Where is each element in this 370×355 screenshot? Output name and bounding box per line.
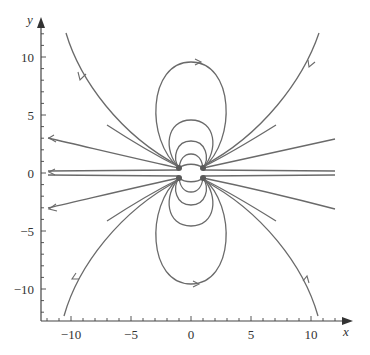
field-line-side-lower-left [48,178,179,208]
y-tick-label: 10 [21,50,34,65]
x-axis-label: x [342,324,349,339]
field-line-plot: x y −10 −5 0 5 10 10 5 0 −5 −10 [0,0,370,355]
field-lines [48,33,335,316]
loop-top-large [156,62,226,168]
direction-arrows [49,59,315,287]
source-point [200,175,206,181]
field-line-axis-right-1 [203,170,335,171]
field-line-side-lower-right [203,178,335,209]
y-tick-labels: 10 5 0 −5 −10 [14,50,34,297]
arrow-icon [72,273,79,279]
source-point [176,165,182,171]
y-tick-label: 0 [28,166,35,181]
field-line-axis-left-2 [48,175,179,176]
loop-bottom-large [156,178,226,284]
x-tick-label: 5 [248,327,255,342]
sources [176,165,206,181]
x-tick-label: −10 [61,327,81,342]
x-tick-label: 0 [188,327,195,342]
x-tick-label: 10 [305,327,318,342]
inner-arc-bottom [179,178,203,182]
source-point [200,165,206,171]
y-axis-label: y [25,12,33,27]
source-point [176,175,182,181]
x-tick-labels: −10 −5 0 5 10 [61,327,318,342]
arrow-icon [308,60,315,67]
field-line-axis-left-1 [48,170,179,171]
x-tick-label: −5 [124,327,138,342]
field-line-axis-right-2 [203,175,335,176]
field-line-mid-top-right [203,125,276,167]
field-line-side-upper-left [48,138,179,168]
field-line-side-upper-right [203,139,335,168]
inner-arc-top [179,164,203,168]
y-tick-label: −10 [14,282,34,297]
y-axis-arrow-icon [37,17,45,28]
y-tick-label: −5 [20,224,34,239]
arrow-icon [49,169,55,175]
y-tick-label: 5 [28,108,35,123]
